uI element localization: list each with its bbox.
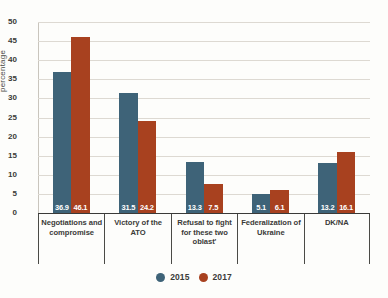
bar-2015-2[interactable]: 13.3 xyxy=(186,162,205,213)
bar-value-label: 6.1 xyxy=(270,203,289,212)
y-axis-tick-label: 40 xyxy=(0,55,17,64)
bar-value-label: 31.5 xyxy=(119,203,138,212)
y-axis-tick-label: 50 xyxy=(0,17,17,26)
category-label: DK/NA xyxy=(325,218,349,228)
bar-2015-0[interactable]: 36.9 xyxy=(53,72,72,213)
legend: 20152017 xyxy=(0,272,388,282)
y-axis-tick-label: 10 xyxy=(0,170,17,179)
legend-label: 2017 xyxy=(213,272,232,282)
bar-value-label: 24.2 xyxy=(138,203,157,212)
bar-2017-1[interactable]: 24.2 xyxy=(138,121,157,213)
gridline xyxy=(38,22,370,23)
legend-item-2015[interactable]: 2015 xyxy=(156,272,189,282)
legend-item-2017[interactable]: 2017 xyxy=(199,272,232,282)
bar-value-label: 13.2 xyxy=(318,203,337,212)
plot-area: 0510152025303540455036.931.513.35.113.24… xyxy=(38,22,370,213)
y-axis-tick-label: 35 xyxy=(0,74,17,83)
bar-value-label: 46.1 xyxy=(71,203,90,212)
category-cell-4: DK/NA xyxy=(304,214,370,264)
category-label: Negotiations andcompromise xyxy=(41,218,102,237)
y-axis-tick-label: 25 xyxy=(0,113,17,122)
legend-swatch-icon xyxy=(199,273,208,282)
bar-2017-2[interactable]: 7.5 xyxy=(204,184,223,213)
legend-label: 2015 xyxy=(170,272,189,282)
legend-swatch-icon xyxy=(156,273,165,282)
category-cell-3: Federalization ofUkraine xyxy=(237,214,303,264)
bar-2017-4[interactable]: 16.1 xyxy=(337,152,356,214)
bar-2015-1[interactable]: 31.5 xyxy=(119,93,138,213)
bar-2017-3[interactable]: 6.1 xyxy=(270,190,289,213)
y-axis-tick-label: 30 xyxy=(0,93,17,102)
bar-value-label: 36.9 xyxy=(53,203,72,212)
bar-value-label: 7.5 xyxy=(204,203,223,212)
chart-title xyxy=(0,0,388,5)
category-label: Federalization ofUkraine xyxy=(241,218,301,237)
bar-2015-3[interactable]: 5.1 xyxy=(252,194,271,213)
category-cell-0: Negotiations andcompromise xyxy=(38,214,104,264)
bar-value-label: 16.1 xyxy=(337,203,356,212)
bar-value-label: 13.3 xyxy=(186,203,205,212)
y-axis-tick-label: 5 xyxy=(0,189,17,198)
bar-value-label: 5.1 xyxy=(252,203,271,212)
category-cell-1: Victory of theATO xyxy=(104,214,170,264)
category-label: Refusal to fightfor these twooblast' xyxy=(177,218,231,247)
category-axis-labels: Negotiations andcompromiseVictory of the… xyxy=(38,214,370,264)
category-cell-2: Refusal to fightfor these twooblast' xyxy=(171,214,237,264)
category-label: Victory of theATO xyxy=(114,218,162,237)
y-axis-tick-label: 15 xyxy=(0,151,17,160)
bar-2015-4[interactable]: 13.2 xyxy=(318,163,337,213)
bar-2017-0[interactable]: 46.1 xyxy=(71,37,90,213)
y-axis-tick-label: 45 xyxy=(0,36,17,45)
y-axis-tick-label: 20 xyxy=(0,132,17,141)
y-axis-tick-label: 0 xyxy=(0,208,17,217)
